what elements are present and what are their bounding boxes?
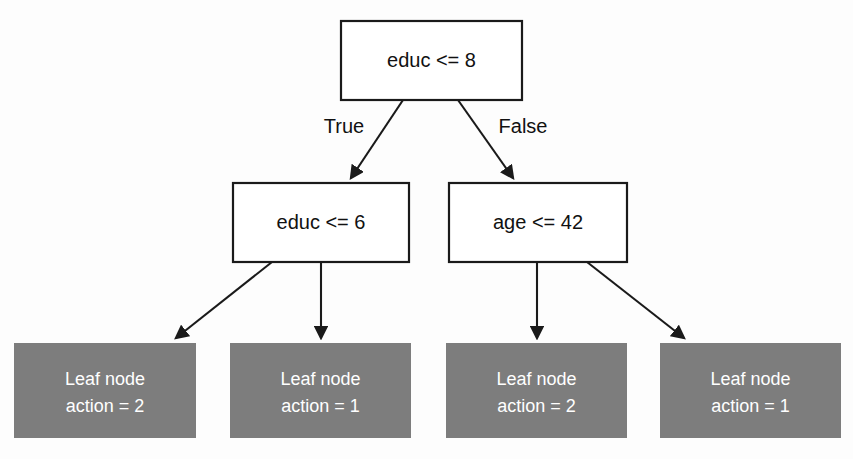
edge-left-node-to-leaf-1 [176,262,272,338]
leaf-node-3-line1: Leaf node [496,369,576,389]
edge-label-false: False [499,115,548,137]
internal-node-educ-label: educ <= 6 [277,211,366,233]
leaf-node-4[interactable] [660,343,841,438]
decision-tree-diagram: educ <= 8 True False educ <= 6 age <= 42… [0,0,853,459]
leaf-node-1-line1: Leaf node [65,369,145,389]
root-node-label: educ <= 8 [387,49,476,71]
edge-root-false [458,100,513,178]
edge-root-true [351,100,403,178]
leaf-node-1-line2: action = 2 [66,396,145,416]
leaf-node-4-line2: action = 1 [711,396,790,416]
leaf-node-2-line1: Leaf node [280,369,360,389]
diagram-canvas: educ <= 8 True False educ <= 6 age <= 42… [0,0,853,459]
leaf-node-1[interactable] [14,343,196,438]
edge-right-node-to-leaf-4 [587,262,684,338]
edge-label-true: True [324,115,364,137]
internal-node-age-label: age <= 42 [493,211,583,233]
leaf-node-2-line2: action = 1 [281,396,360,416]
leaf-node-3-line2: action = 2 [497,396,576,416]
leaf-node-2[interactable] [230,343,411,438]
leaf-node-3[interactable] [446,343,627,438]
leaf-node-4-line1: Leaf node [710,369,790,389]
